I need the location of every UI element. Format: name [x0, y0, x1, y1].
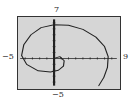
x-max-label: 9: [123, 53, 128, 61]
y-max-label: 7: [54, 6, 59, 14]
spiral-curve: [22, 25, 109, 86]
axes: [20, 19, 117, 85]
x-min-label: −5: [2, 53, 14, 61]
y-min-label: −5: [52, 91, 64, 99]
graph-window: [17, 16, 121, 90]
plot-area: [18, 17, 119, 88]
